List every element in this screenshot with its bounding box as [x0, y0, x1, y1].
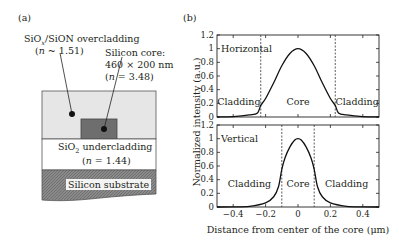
intensity-curve: [217, 139, 379, 207]
plot-title: Horizontal: [221, 43, 272, 54]
y-tick-label: 1.2: [200, 120, 214, 131]
region-label-cladding-left: Cladding: [228, 178, 271, 189]
y-tick-label: 0.8: [200, 57, 214, 68]
region-label-cladding-right: Cladding: [325, 178, 368, 189]
x-tick-label: 0.4: [356, 209, 370, 220]
x-tick-label: 0: [295, 209, 300, 220]
y-tick-label: 0.6: [200, 161, 214, 172]
region-label-core: Core: [286, 178, 309, 189]
y-tick-label: 0.4: [200, 174, 214, 185]
y-tick-label: 1: [209, 133, 214, 144]
y-tick-label: 0.8: [200, 147, 214, 158]
y-tick-label: 0.2: [200, 188, 214, 199]
region-label-cladding-left: Cladding: [217, 96, 260, 107]
plot-title: Vertical: [221, 133, 258, 144]
region-label-cladding-right: Cladding: [335, 96, 378, 107]
y-tick-label: 0.6: [200, 71, 214, 82]
y-tick-label: 1: [209, 43, 214, 54]
x-tick-label: −0.2: [255, 209, 276, 220]
x-tick-label: −0.4: [223, 209, 244, 220]
region-label-core: Core: [286, 96, 309, 107]
y-tick-label: 0.4: [200, 84, 214, 95]
y-tick-label: 1.2: [200, 30, 214, 41]
y-tick-label: 0.2: [200, 98, 214, 109]
x-tick-label: 0.2: [324, 209, 338, 220]
y-tick-label: 0: [209, 202, 214, 213]
x-axis-label: Distance from center of the core (μm): [207, 224, 390, 235]
